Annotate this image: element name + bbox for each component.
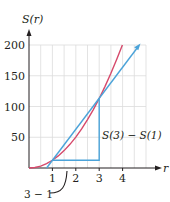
chart-svg: S(r) r 200 150 100 50 1 2 3 4 S(3) − S(1…	[0, 0, 170, 202]
y-tick-50: 50	[11, 131, 25, 144]
secant-line	[47, 48, 138, 169]
x-tick-2: 2	[72, 172, 79, 185]
y-tick-150: 150	[4, 70, 25, 83]
x-tick-1: 1	[49, 172, 56, 185]
x-tick-3: 3	[96, 172, 103, 185]
run-label: 3 − 1	[24, 188, 53, 200]
axes	[29, 33, 158, 168]
y-tick-200: 200	[4, 39, 25, 52]
y-axis-arrow-icon	[27, 29, 32, 36]
y-axis-label: S(r)	[22, 13, 43, 26]
x-tick-4: 4	[119, 172, 126, 185]
x-axis-arrow-icon	[155, 166, 162, 171]
grid	[29, 45, 146, 168]
rise-label: S(3) − S(1)	[102, 129, 162, 141]
secant-arrow-icon	[134, 44, 140, 51]
x-axis-label: r	[163, 162, 169, 175]
y-tick-100: 100	[4, 101, 25, 114]
